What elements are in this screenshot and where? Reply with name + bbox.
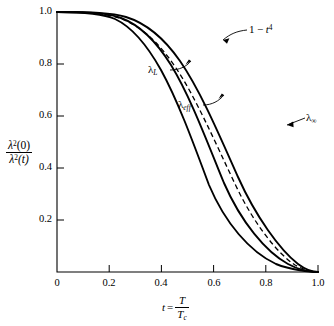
annotation-lambda-L: λL [148,64,157,76]
x-axis-den-subscript: c [183,313,186,322]
annotation-one-minus-t4: 1−t4 [249,24,272,35]
x-axis-title: t= T Tc [162,295,189,321]
one-minus-t4-one: 1 [249,23,255,35]
lambda-infinity-subscript: ∞ [311,116,316,125]
x-tick-label-0-4: 0.4 [147,278,175,289]
series-lambda-eff [57,12,318,272]
x-tick-label-0-2: 0.2 [95,278,123,289]
y-axis-title-fraction: λ2(0) λ2(t) [6,139,32,166]
x-axis-title-equals: = [167,301,173,313]
one-minus-t4-exponent: 4 [269,23,273,32]
x-axis-title-numerator: T [175,295,188,308]
lambda-eff-subscript: eff [183,103,190,112]
x-axis-title-variable: t [162,301,165,313]
axis-frame [57,12,318,272]
x-tick-label-1-0: 1.0 [304,278,332,289]
x-tick-label-0-6: 0.6 [200,278,228,289]
x-axis-ticks [109,265,318,272]
annotation-lambda-infinity: λ∞ [306,112,317,124]
x-axis-title-fraction: T Tc [175,295,188,321]
y-axis-title: λ2(0) λ2(t) [6,139,32,166]
lambda-L-subscript: L [153,68,157,77]
y-axis-den-argument: (t) [18,153,29,165]
chart-figure: 1.0 0.8 0.6 0.4 0.2 0 0.2 0.4 0.6 0.8 1.… [0,0,334,326]
y-tick-label-0-2: 0.2 [22,214,52,225]
y-axis-ticks [57,12,64,220]
x-tick-label-0-8: 0.8 [252,278,280,289]
y-tick-label-1-0: 1.0 [22,6,52,17]
annotation-lambda-eff: λeff [178,99,191,111]
y-axis-num-argument: (0) [17,139,30,151]
y-axis-title-numerator: λ2(0) [6,139,32,153]
y-axis-title-denominator: λ2(t) [6,153,32,166]
x-tick-label-0: 0 [43,278,71,289]
one-minus-t4-minus: − [257,23,263,35]
series-lambda-L [57,12,318,272]
x-axis-title-denominator: Tc [175,308,188,321]
series-one-minus-t4 [57,12,318,272]
y-tick-label-0-6: 0.6 [22,110,52,121]
y-tick-label-0-8: 0.8 [22,58,52,69]
series-lambda-infinity [57,12,318,272]
